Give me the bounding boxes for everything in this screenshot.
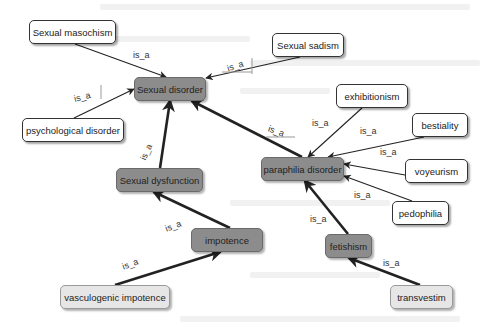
node-sexual-disorder[interactable]: Sexual disorder <box>134 77 206 101</box>
node-transvestim[interactable]: transvestim <box>390 285 453 309</box>
edge-bestiality-to-paraphilia[interactable] <box>328 137 424 157</box>
node-label: pedophilia <box>399 208 442 219</box>
node-fetishism[interactable]: fetishism <box>325 234 372 258</box>
edge-label: is_a <box>312 118 329 128</box>
node-label: impotence <box>205 235 249 246</box>
node-sadism[interactable]: Sexual sadism <box>272 33 344 57</box>
node-label: Sexual disorder <box>137 84 203 95</box>
edge-fetishism-to-paraphilia[interactable] <box>305 181 348 234</box>
edge-label: is_a <box>380 147 397 157</box>
node-label: transvestim <box>397 292 446 303</box>
node-bestiality[interactable]: bestiality <box>412 113 468 137</box>
edge-masochism-to-sexual_disorder[interactable] <box>75 44 166 77</box>
node-label: bestiality <box>422 120 459 131</box>
edge-voyeurism-to-paraphilia[interactable] <box>344 164 405 175</box>
node-vasculogenic[interactable]: vasculogenic impotence <box>60 285 170 309</box>
edge-label: is_a <box>354 190 371 200</box>
node-voyeurism[interactable]: voyeurism <box>405 159 468 183</box>
node-pedophilia[interactable]: pedophilia <box>392 201 449 225</box>
node-label: Sexual masochism <box>33 27 113 38</box>
edge-sadism-to-sexual_disorder[interactable] <box>206 57 300 78</box>
node-impotence[interactable]: impotence <box>191 228 263 252</box>
edge-label: is_a <box>133 50 150 60</box>
node-exhibitionism[interactable]: exhibitionism <box>336 84 408 108</box>
node-paraphilia[interactable]: paraphilia disorder <box>261 157 344 181</box>
node-label: paraphilia disorder <box>263 164 341 175</box>
node-label: Sexual dysfunction <box>120 175 200 186</box>
node-label: vasculogenic impotence <box>64 292 165 303</box>
edge-label: is_a <box>310 214 327 224</box>
node-label: exhibitionism <box>345 91 400 102</box>
node-masochism[interactable]: Sexual masochism <box>29 20 116 44</box>
edge-dysfunction-to-sexual_disorder[interactable] <box>160 101 170 168</box>
node-psych[interactable]: psychological disorder <box>22 118 124 142</box>
edge-label: is_a <box>383 258 400 268</box>
node-label: psychological disorder <box>26 125 120 136</box>
node-label: Sexual sadism <box>277 40 339 51</box>
node-label: fetishism <box>330 241 367 252</box>
node-label: voyeurism <box>415 166 458 177</box>
node-dysfunction[interactable]: Sexual dysfunction <box>116 168 203 192</box>
edge-exhibitionism-to-paraphilia[interactable] <box>308 108 362 157</box>
edge-label: is_a <box>360 126 377 136</box>
